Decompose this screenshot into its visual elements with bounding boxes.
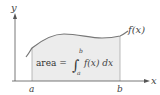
upper-bound-label: b: [117, 84, 123, 94]
lower-bound-label: a: [29, 84, 34, 94]
y-axis-arrow-icon: [13, 13, 17, 19]
integral-upper-limit: b: [79, 47, 83, 54]
y-axis-label: y: [10, 2, 17, 13]
x-axis-label: x: [151, 75, 157, 86]
area-under-curve-diagram: y x a b f(x) area = ∫ b a f(x) dx: [0, 0, 160, 95]
x-axis-arrow-icon: [144, 79, 150, 83]
integrand: f(x) dx: [83, 58, 113, 68]
formula-lhs: area =: [36, 58, 67, 68]
curve-label: f(x): [127, 24, 145, 35]
integral-lower-limit: a: [77, 69, 81, 76]
